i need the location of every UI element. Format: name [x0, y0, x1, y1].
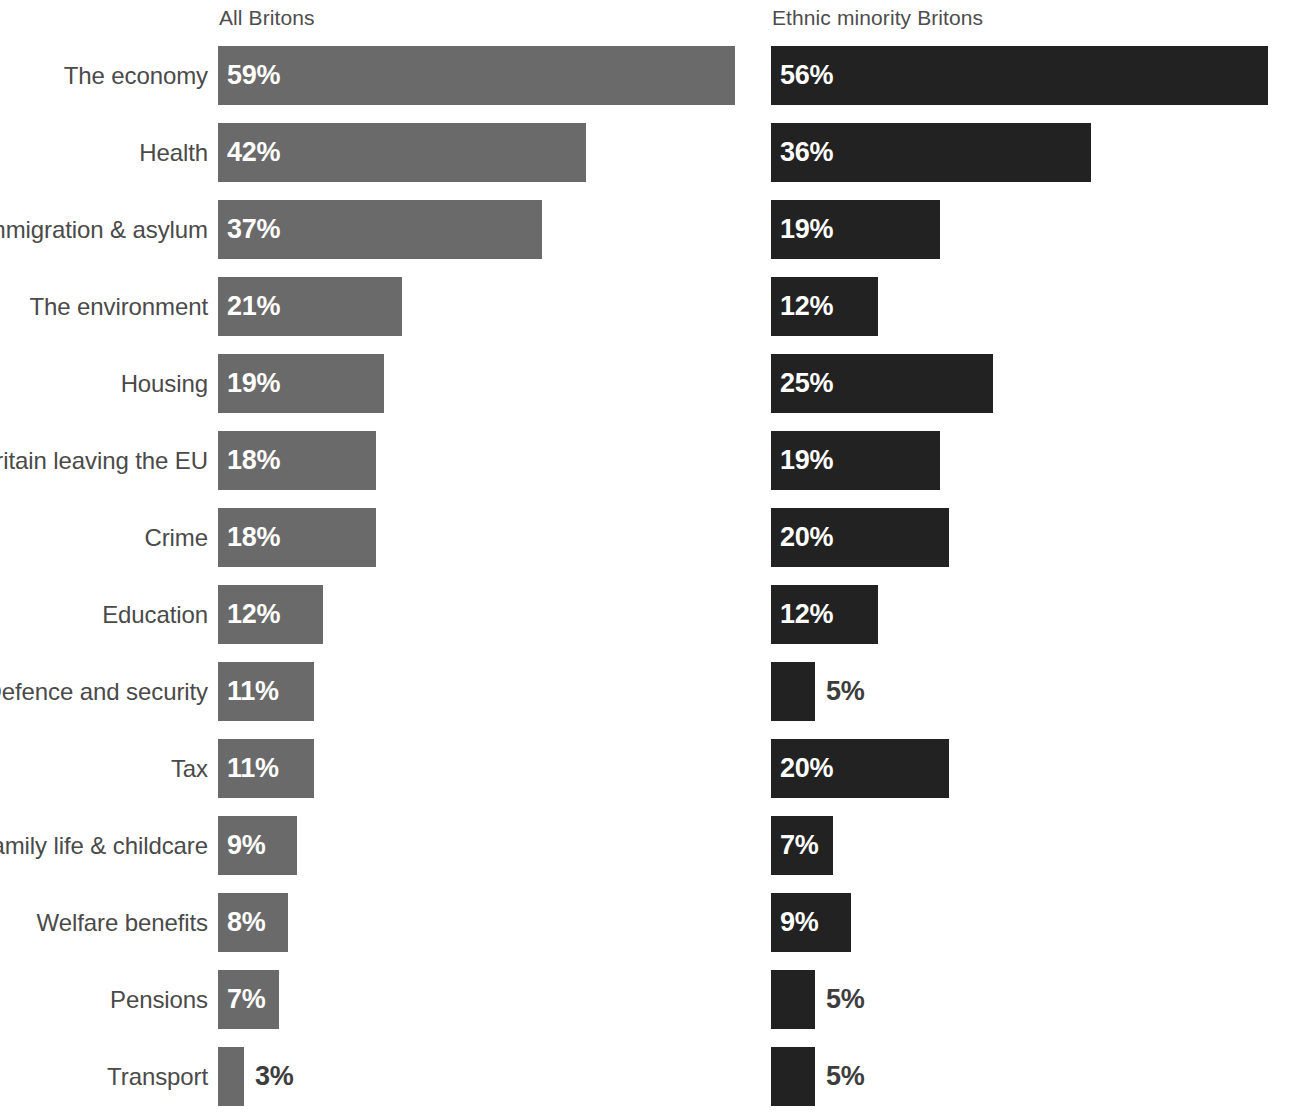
category-label: The environment: [29, 277, 208, 336]
bar-value-label: 3%: [255, 1047, 293, 1106]
bar: [771, 1047, 815, 1106]
table-row: Tax11%20%: [0, 739, 1295, 798]
bar-value-label: 12%: [780, 277, 833, 336]
category-label: The economy: [64, 46, 208, 105]
table-row: Education12%12%: [0, 585, 1295, 644]
bar-value-label: 19%: [780, 200, 833, 259]
category-label: Britain leaving the EU: [0, 431, 208, 490]
source-footnote: [2, 1104, 642, 1113]
bar-value-label: 7%: [227, 970, 265, 1029]
bar-value-label: 5%: [826, 662, 864, 721]
bar-value-label: 9%: [780, 893, 818, 952]
table-row: Defence and security11%5%: [0, 662, 1295, 721]
bar-value-label: 19%: [780, 431, 833, 490]
table-row: Welfare benefits8%9%: [0, 893, 1295, 952]
bar-value-label: 5%: [826, 1047, 864, 1106]
table-row: The economy59%56%: [0, 46, 1295, 105]
category-label: Education: [102, 585, 208, 644]
bar-value-label: 12%: [227, 585, 280, 644]
table-row: Housing19%25%: [0, 354, 1295, 413]
bar-value-label: 18%: [227, 431, 280, 490]
bar-value-label: 36%: [780, 123, 833, 182]
bar-value-label: 42%: [227, 123, 280, 182]
table-row: Transport3%5%: [0, 1047, 1295, 1106]
bar-value-label: 59%: [227, 46, 280, 105]
table-row: Family life & childcare9%7%: [0, 816, 1295, 875]
bar-value-label: 37%: [227, 200, 280, 259]
bar-value-label: 20%: [780, 508, 833, 567]
table-row: The environment21%12%: [0, 277, 1295, 336]
category-label: Health: [139, 123, 208, 182]
category-label: Defence and security: [0, 662, 208, 721]
bar-value-label: 21%: [227, 277, 280, 336]
table-row: Health42%36%: [0, 123, 1295, 182]
category-label: Pensions: [110, 970, 208, 1029]
category-label: Housing: [121, 354, 208, 413]
bar-value-label: 56%: [780, 46, 833, 105]
table-row: Pensions7%5%: [0, 970, 1295, 1029]
bar: [218, 46, 735, 105]
category-label: Family life & childcare: [0, 816, 208, 875]
table-row: Crime18%20%: [0, 508, 1295, 567]
bar-value-label: 18%: [227, 508, 280, 567]
bar-value-label: 12%: [780, 585, 833, 644]
bar: [771, 662, 815, 721]
bar-value-label: 11%: [227, 662, 279, 721]
bar: [771, 970, 815, 1029]
bar-value-label: 5%: [826, 970, 864, 1029]
table-row: Immigration & asylum37%19%: [0, 200, 1295, 259]
bar-value-label: 25%: [780, 354, 833, 413]
bar-value-label: 8%: [227, 893, 265, 952]
bar-value-label: 19%: [227, 354, 280, 413]
category-label: Tax: [171, 739, 208, 798]
bar: [771, 46, 1268, 105]
category-label: Crime: [145, 508, 209, 567]
column-header-ethnic-minority-britons: Ethnic minority Britons: [772, 6, 983, 30]
category-label: Welfare benefits: [37, 893, 208, 952]
bar: [218, 1047, 244, 1106]
column-header-all-britons: All Britons: [219, 6, 315, 30]
bar-value-label: 9%: [227, 816, 265, 875]
category-label: Immigration & asylum: [0, 200, 208, 259]
bar-value-label: 11%: [227, 739, 279, 798]
table-row: Britain leaving the EU18%19%: [0, 431, 1295, 490]
bar-value-label: 20%: [780, 739, 833, 798]
bar-value-label: 7%: [780, 816, 818, 875]
category-label: Transport: [107, 1047, 208, 1106]
chart-container: All Britons Ethnic minority Britons The …: [0, 0, 1295, 1113]
